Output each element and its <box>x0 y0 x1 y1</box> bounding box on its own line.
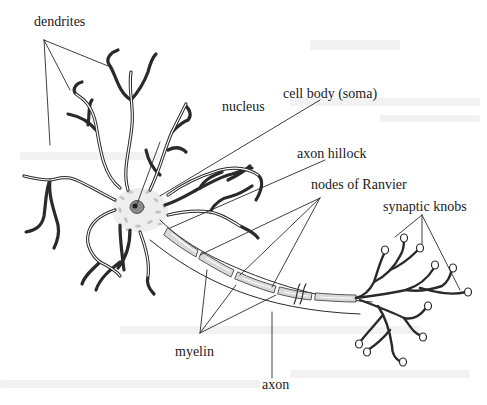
label-axon-hillock: axon hillock <box>297 147 367 161</box>
label-myelin: myelin <box>175 345 214 359</box>
axon-terminals-shape <box>356 240 466 362</box>
label-synaptic-knobs: synaptic knobs <box>383 200 467 214</box>
label-cell-body: cell body (soma) <box>283 87 377 101</box>
label-dendrites: dendrites <box>34 15 85 29</box>
dendrites-shape <box>24 50 262 294</box>
label-nodes-of-ranvier: nodes of Ranvier <box>311 178 407 192</box>
axon-shape <box>150 220 372 314</box>
label-nucleus: nucleus <box>222 100 265 114</box>
label-axon: axon <box>262 378 289 392</box>
neuron-diagram: dendrites nucleus cell body (soma) axon … <box>0 0 487 405</box>
